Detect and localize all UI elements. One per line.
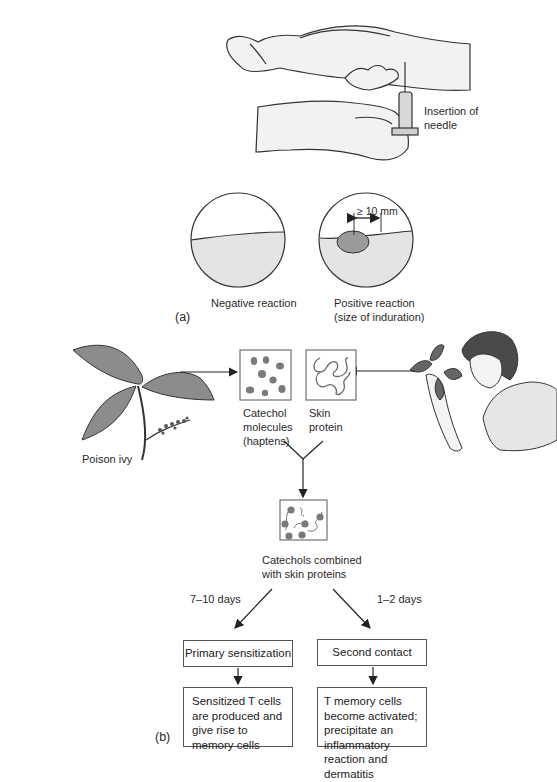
catechol-label-line1: Catechol (243, 406, 286, 420)
person-holding-poison-ivy-illustration (410, 332, 557, 451)
positive-reaction-label-line2: (size of induration) (334, 310, 425, 324)
merge-connector (284, 441, 323, 497)
negative-reaction-label: Negative reaction (211, 296, 297, 310)
needle-label-line2: needle (424, 118, 457, 132)
forearm-injection-illustration (227, 26, 470, 160)
combined-box (280, 500, 327, 540)
right-branch-time: 1–2 days (377, 592, 422, 606)
positive-reaction-label-line1: Positive reaction (334, 296, 415, 310)
second-contact-title: Second contact (318, 640, 426, 665)
primary-result-box: Sensitized T cells are produced and give… (183, 687, 293, 747)
poison-ivy-label: Poison ivy (82, 452, 132, 466)
primary-sensitization-title: Primary sensitization (184, 641, 292, 666)
skin-protein-box (306, 350, 356, 400)
skin-protein-label-line1: Skin (309, 406, 330, 420)
catechol-box (240, 350, 291, 400)
panel-a-label: (a) (175, 310, 190, 324)
primary-sensitization-box: Primary sensitization (183, 640, 293, 667)
skin-protein-label-line2: protein (309, 420, 343, 434)
primary-result-text: Sensitized T cells are produced and give… (184, 688, 292, 758)
induration-spot (337, 231, 369, 253)
arrow-to-second-contact (333, 589, 370, 628)
needle-label-line1: Insertion of (424, 104, 478, 118)
catechol-label-line3: (haptens) (243, 434, 289, 448)
measurement-label: ≥ 10 mm (357, 204, 398, 218)
panel-b-label: (b) (155, 730, 170, 744)
combined-label-line2: with skin proteins (262, 567, 346, 581)
second-contact-box: Second contact (317, 639, 427, 666)
left-branch-time: 7–10 days (190, 592, 241, 606)
negative-reaction-circle (188, 193, 290, 300)
poison-ivy-illustration (73, 345, 214, 460)
second-result-text: T memory cells become activated; precipi… (318, 688, 426, 782)
second-result-box: T memory cells become activated; precipi… (317, 687, 427, 747)
combined-label-line1: Catechols combined (262, 553, 362, 567)
catechol-label-line2: molecules (243, 420, 293, 434)
